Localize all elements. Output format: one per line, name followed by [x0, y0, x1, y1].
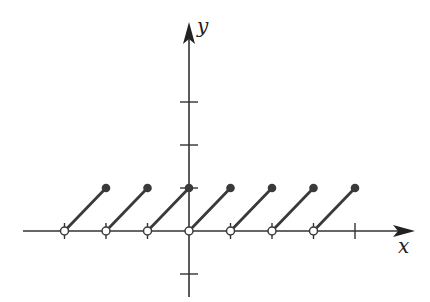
open-endpoint-circle: [144, 227, 152, 235]
closed-endpoint-dot: [309, 184, 318, 193]
open-endpoint-circle: [227, 227, 235, 235]
closed-endpoint-dot: [268, 184, 277, 193]
function-segment: [272, 188, 314, 231]
open-endpoint-circle: [102, 227, 110, 235]
sawtooth-graph: [0, 0, 430, 302]
function-segment: [65, 188, 107, 231]
function-segment: [189, 188, 231, 231]
y-axis-label: y: [197, 16, 208, 36]
function-segment: [106, 188, 148, 231]
closed-endpoint-dot: [185, 184, 194, 193]
open-endpoint-circle: [310, 227, 318, 235]
open-endpoint-circle: [61, 227, 69, 235]
open-endpoint-circle: [268, 227, 276, 235]
x-axis-label: x: [398, 236, 409, 256]
function-segments: [65, 188, 356, 231]
axes: [23, 22, 415, 297]
function-segment: [314, 188, 356, 231]
open-endpoint-circle: [185, 227, 193, 235]
closed-endpoint-dot: [226, 184, 235, 193]
function-segment: [231, 188, 273, 231]
function-segment: [148, 188, 190, 231]
closed-endpoint-dot: [102, 184, 111, 193]
closed-endpoint-dot: [143, 184, 152, 193]
closed-endpoint-dot: [351, 184, 360, 193]
